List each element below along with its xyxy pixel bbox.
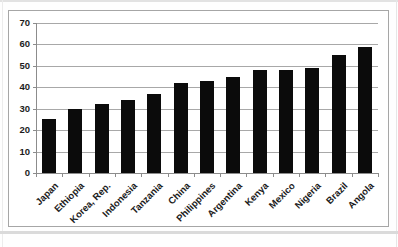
x-axis-tick (141, 173, 142, 177)
x-axis-category-label: Angola (345, 180, 376, 211)
bar (226, 77, 240, 173)
x-axis-tick (273, 173, 274, 177)
bar (332, 55, 346, 173)
x-axis-line (36, 173, 378, 174)
bar (68, 109, 82, 173)
y-axis-line (36, 23, 37, 173)
frame-line-top (0, 0, 398, 2)
frame-line-bottom (0, 231, 398, 234)
y-axis-tick-label: 20 (19, 124, 30, 136)
x-axis-tick (352, 173, 353, 177)
bar (147, 94, 161, 173)
y-axis-tick-label: 70 (19, 17, 30, 29)
plot-area: 010203040506070JapanEthiopiaKorea, Rep.I… (9, 11, 388, 226)
x-axis-tick (325, 173, 326, 177)
y-axis-tick-label: 50 (19, 60, 30, 72)
x-axis-tick (194, 173, 195, 177)
x-axis-tick (168, 173, 169, 177)
bar (121, 100, 135, 173)
x-axis-tick (246, 173, 247, 177)
gridline (36, 44, 378, 45)
bar (253, 70, 267, 173)
bar (279, 70, 293, 173)
bar (305, 68, 319, 173)
bar (95, 104, 109, 173)
x-axis-tick (36, 173, 37, 177)
x-axis-category-label: Mexico (266, 180, 297, 211)
x-axis-tick (62, 173, 63, 177)
frame-line-left (2, 0, 3, 247)
bar (200, 81, 214, 173)
x-axis-tick (378, 173, 379, 177)
y-axis-tick-label: 40 (19, 81, 30, 93)
y-axis-tick-label: 60 (19, 38, 30, 50)
x-axis-tick (220, 173, 221, 177)
y-axis-tick-label: 10 (19, 146, 30, 158)
gridline (36, 23, 378, 24)
x-axis-tick (299, 173, 300, 177)
page: 010203040506070JapanEthiopiaKorea, Rep.I… (0, 0, 398, 247)
y-axis-tick-label: 30 (19, 103, 30, 115)
frame-line-right (396, 0, 397, 247)
x-axis-tick (115, 173, 116, 177)
y-axis-tick-label: 0 (25, 167, 30, 179)
bar-chart[interactable]: 010203040506070JapanEthiopiaKorea, Rep.I… (8, 10, 389, 227)
x-axis-category-label: Nigeria (292, 180, 323, 211)
x-axis-tick (89, 173, 90, 177)
gridline (36, 66, 378, 67)
bar (42, 119, 56, 173)
bar (174, 83, 188, 173)
bar (358, 47, 372, 173)
